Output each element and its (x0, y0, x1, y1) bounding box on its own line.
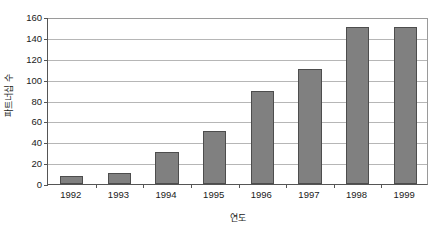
plot-area (47, 18, 428, 185)
y-tick-mark (44, 185, 48, 186)
x-tick-label: 1995 (203, 190, 224, 200)
bar (60, 176, 83, 184)
x-tick-mark (239, 184, 240, 188)
bar (346, 27, 369, 184)
y-axis-title-label: 파트너십 수 (3, 73, 16, 117)
x-tick-label: 1997 (298, 190, 319, 200)
x-axis-tick-labels: 19921993199419951996199719981999 (47, 190, 428, 206)
x-tick-label: 1996 (251, 190, 272, 200)
y-tick-label: 40 (31, 139, 42, 149)
y-tick-label: 0 (37, 180, 42, 190)
y-tick-label: 20 (31, 159, 42, 169)
x-tick-mark (381, 184, 382, 188)
bar (203, 131, 226, 184)
x-tick-label: 1994 (155, 190, 176, 200)
y-axis-title: 파트너십 수 (0, 0, 18, 190)
x-tick-label: 1998 (346, 190, 367, 200)
x-tick-mark (191, 184, 192, 188)
bars-layer (48, 18, 427, 184)
y-tick-label: 140 (26, 34, 42, 44)
y-tick-label: 120 (26, 55, 42, 65)
bar (298, 69, 321, 184)
y-tick-label: 60 (31, 118, 42, 128)
y-tick-label: 100 (26, 76, 42, 86)
x-tick-mark (96, 184, 97, 188)
x-tick-label: 1999 (394, 190, 415, 200)
bar (394, 27, 417, 184)
bar (251, 91, 274, 184)
x-tick-mark (286, 184, 287, 188)
bar (155, 152, 178, 184)
y-axis-tick-labels: 020406080100120140160 (18, 12, 44, 190)
x-tick-mark (143, 184, 144, 188)
x-axis-title: 연도 (47, 211, 428, 224)
y-tick-label: 160 (26, 13, 42, 23)
x-tick-mark (334, 184, 335, 188)
x-tick-label: 1992 (60, 190, 81, 200)
x-tick-label: 1993 (108, 190, 129, 200)
bar-chart-figure: 파트너십 수 020406080100120140160 19921993199… (0, 0, 443, 234)
bar (108, 173, 131, 184)
y-tick-label: 80 (31, 97, 42, 107)
